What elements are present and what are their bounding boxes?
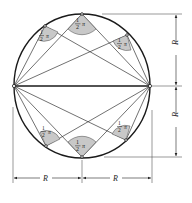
point-lower-left xyxy=(45,145,48,148)
svg-text:π: π xyxy=(124,124,127,130)
point-left-endpoint xyxy=(12,84,15,87)
dimension-label-lower-r: R xyxy=(171,112,180,118)
svg-text:π: π xyxy=(124,41,127,47)
svg-text:1: 1 xyxy=(118,120,121,126)
inscribed-angle-diagram: 1 2 π 1 2 π 1 2 π 1 2 π 1 2 π xyxy=(0,0,192,203)
svg-text:2: 2 xyxy=(118,44,121,50)
point-bottom xyxy=(81,156,84,159)
svg-text:π: π xyxy=(48,129,51,135)
svg-text:2: 2 xyxy=(40,36,43,42)
svg-text:1: 1 xyxy=(118,37,121,43)
svg-text:2: 2 xyxy=(118,127,121,133)
point-right-endpoint xyxy=(148,84,151,87)
point-top xyxy=(81,13,84,16)
svg-text:1: 1 xyxy=(42,125,45,131)
svg-text:π: π xyxy=(46,33,49,39)
point-upper-right xyxy=(126,34,129,37)
dimension-label-right-r: R xyxy=(112,174,118,183)
point-upper-left xyxy=(44,25,47,28)
dimension-label-left-r: R xyxy=(42,174,48,183)
svg-text:1: 1 xyxy=(40,29,43,35)
svg-text:2: 2 xyxy=(76,24,79,30)
svg-text:2: 2 xyxy=(76,146,79,152)
point-lower-right xyxy=(125,139,128,142)
dimension-label-upper-r: R xyxy=(171,40,180,46)
svg-text:2: 2 xyxy=(42,132,45,138)
svg-text:1: 1 xyxy=(76,17,79,23)
svg-text:1: 1 xyxy=(76,139,79,145)
